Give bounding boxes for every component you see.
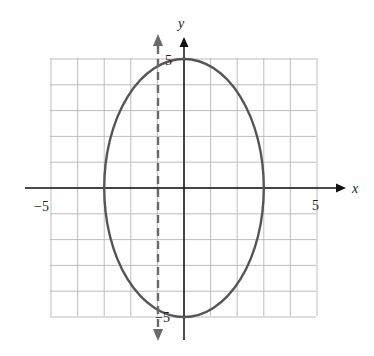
- y-tick-min-label: −5: [155, 310, 170, 325]
- x-axis-arrow-icon: [336, 184, 346, 193]
- x-tick-max-label: 5: [312, 198, 319, 213]
- dashed-line-up-arrow-icon: [153, 34, 163, 46]
- x-axis-label: x: [351, 181, 359, 196]
- y-tick-max-label: 5: [165, 53, 172, 68]
- dashed-line-down-arrow-icon: [153, 329, 163, 341]
- y-axis-arrow-icon: [180, 37, 189, 47]
- coordinate-plane: x y −5 5 5 −5: [0, 0, 374, 356]
- axes: [25, 37, 346, 340]
- x-tick-min-label: −5: [34, 199, 49, 214]
- y-axis-label: y: [176, 16, 185, 31]
